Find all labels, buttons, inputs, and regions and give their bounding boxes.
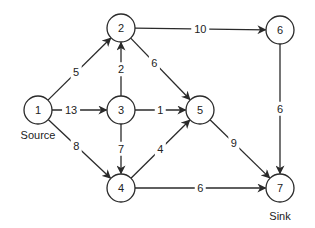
- edge-6-to-7: 6: [275, 44, 286, 174]
- edge-capacity-label: 13: [65, 104, 77, 116]
- flow-network-diagram: 51382610174966 1234567 Source Sink: [0, 0, 315, 228]
- edge-capacity-label: 1: [157, 104, 163, 116]
- edge-5-to-7: 9: [210, 120, 270, 178]
- node-label: 1: [35, 104, 41, 116]
- edge-capacity-label: 9: [231, 137, 237, 149]
- node-label: 4: [118, 182, 124, 194]
- node-5: 5: [186, 96, 214, 124]
- edge-2-to-5: 6: [131, 38, 190, 99]
- node-label: 7: [277, 182, 283, 194]
- node-2: 2: [107, 14, 135, 42]
- node-label: 3: [118, 104, 124, 116]
- edge-3-to-2: 2: [116, 43, 127, 97]
- edge-1-to-4: 8: [48, 120, 110, 178]
- edge-capacity-label: 6: [151, 57, 157, 69]
- node-1: 1: [24, 96, 52, 124]
- edge-3-to-5: 1: [135, 103, 186, 117]
- edge-3-to-4: 7: [116, 124, 127, 174]
- source-caption: Source: [21, 129, 56, 141]
- edges-layer: 51382610174966: [48, 22, 286, 195]
- edge-2-to-6: 10: [135, 22, 266, 36]
- node-label: 2: [118, 22, 124, 34]
- edge-capacity-label: 7: [118, 143, 124, 155]
- edge-4-to-7: 6: [135, 181, 266, 195]
- node-3: 3: [107, 96, 135, 124]
- node-label: 6: [277, 24, 283, 36]
- edge-capacity-label: 6: [197, 182, 203, 194]
- edge-arrow: [210, 120, 270, 178]
- edge-capacity-label: 6: [277, 103, 283, 115]
- edge-arrow: [131, 38, 190, 99]
- node-7: 7: [266, 174, 294, 202]
- node-4: 4: [107, 174, 135, 202]
- edge-1-to-2: 5: [48, 38, 111, 100]
- edge-4-to-5: 4: [131, 120, 190, 178]
- edge-capacity-label: 10: [194, 23, 206, 35]
- node-6: 6: [266, 16, 294, 44]
- sink-caption: Sink: [269, 210, 291, 222]
- edge-1-to-3: 13: [52, 103, 107, 117]
- edge-capacity-label: 4: [157, 143, 163, 155]
- edge-capacity-label: 5: [73, 66, 79, 78]
- node-label: 5: [197, 104, 203, 116]
- edge-capacity-label: 8: [73, 140, 79, 152]
- edge-capacity-label: 2: [118, 63, 124, 75]
